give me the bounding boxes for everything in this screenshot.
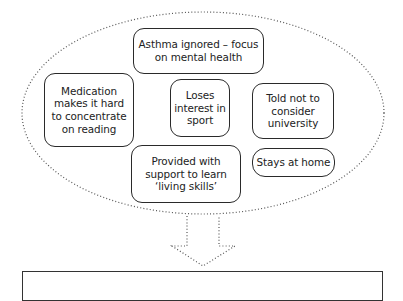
node-provided: Provided with support to learn ‘living s… [131,145,241,203]
node-loses: Loses interest in sport [170,79,230,137]
outcome-box [22,271,383,301]
node-asthma: Asthma ignored – focus on mental health [133,28,264,74]
node-told-label: Told not to consider university [256,92,330,130]
down-arrow-icon [172,216,235,266]
node-told: Told not to consider university [252,83,334,139]
node-loses-label: Loses interest in sport [174,89,226,127]
node-provided-label: Provided with support to learn ‘living s… [135,155,237,193]
node-stays-label: Stays at home [257,156,331,169]
node-medication: Medication makes it hard to concentrate … [44,73,134,147]
node-stays: Stays at home [252,148,335,177]
node-medication-label: Medication makes it hard to concentrate … [48,85,130,135]
node-asthma-label: Asthma ignored – focus on mental health [137,38,260,63]
